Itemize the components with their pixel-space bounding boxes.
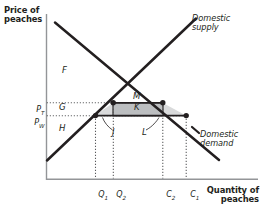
point-c1 (184, 113, 189, 118)
region-label-l: L (142, 128, 147, 138)
price-tick-world: PW (24, 110, 45, 138)
region-label-k: K (134, 103, 140, 113)
leader-line-group (103, 118, 160, 131)
quantity-tick-c1-sub: 1 (196, 195, 200, 201)
region-label-m: M (133, 92, 140, 102)
region-label-g: G (59, 103, 66, 113)
leader-line-j (103, 118, 113, 131)
x-axis-title: Quantity of peaches (207, 186, 259, 205)
point-q1 (93, 113, 98, 118)
region-label-j: J (112, 128, 115, 138)
y-axis-title: Price of peaches (4, 6, 42, 25)
domestic-supply-label: Domestic supply (192, 14, 230, 32)
quantity-tick-q2-sub: 2 (122, 195, 126, 201)
region-label-h: H (59, 124, 65, 134)
quantity-tick-c1: C1 (180, 182, 199, 210)
quantity-tick-c2: C2 (156, 182, 175, 210)
tariff-supply-demand-diagram: Price of peaches Quantity of peaches Dom… (0, 0, 262, 224)
quantity-tick-c2-sub: 2 (172, 195, 176, 201)
point-c2 (160, 100, 165, 105)
demand-label-pointer (192, 127, 199, 133)
region-label-f: F (62, 66, 67, 76)
domestic-supply-curve (47, 19, 196, 161)
domestic-demand-label: Domestic demand (200, 130, 238, 148)
price-tick-world-sub: W (39, 123, 45, 129)
quantity-tick-q2: Q2 (106, 182, 126, 210)
point-q2 (111, 100, 116, 105)
leader-line-l (146, 118, 159, 131)
